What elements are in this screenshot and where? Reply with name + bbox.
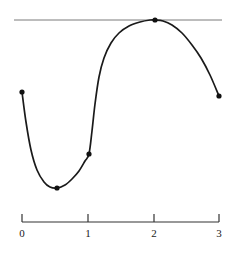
data-point-local-minimum <box>54 185 59 190</box>
x-axis-tick-label-0: 0 <box>15 227 29 239</box>
curve-path <box>22 20 219 188</box>
data-point-inflection <box>86 151 91 156</box>
plot-canvas <box>0 0 237 255</box>
data-point-right-endpoint <box>216 93 221 98</box>
x-axis-tick-group <box>22 214 219 222</box>
figure-container: 0123 <box>0 0 237 255</box>
x-axis-tick-label-2: 2 <box>147 227 161 239</box>
data-point-local-maximum-tangency <box>152 17 157 22</box>
x-axis-tick-label-1: 1 <box>81 227 95 239</box>
data-point-left-endpoint <box>19 89 24 94</box>
x-axis-tick-label-3: 3 <box>212 227 226 239</box>
